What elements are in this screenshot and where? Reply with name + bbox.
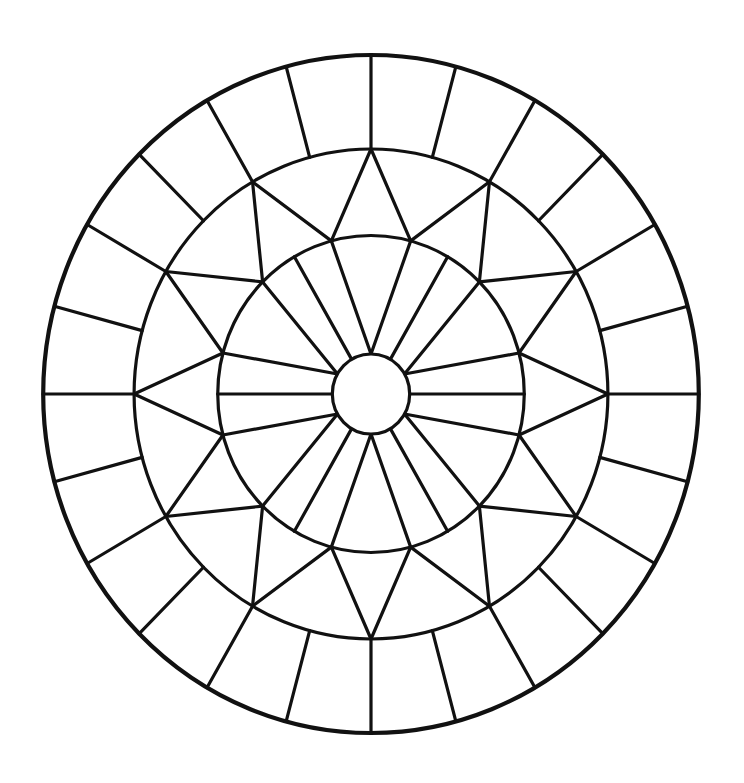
center-hub-circle <box>332 354 409 434</box>
mandala-diagram <box>0 0 744 783</box>
